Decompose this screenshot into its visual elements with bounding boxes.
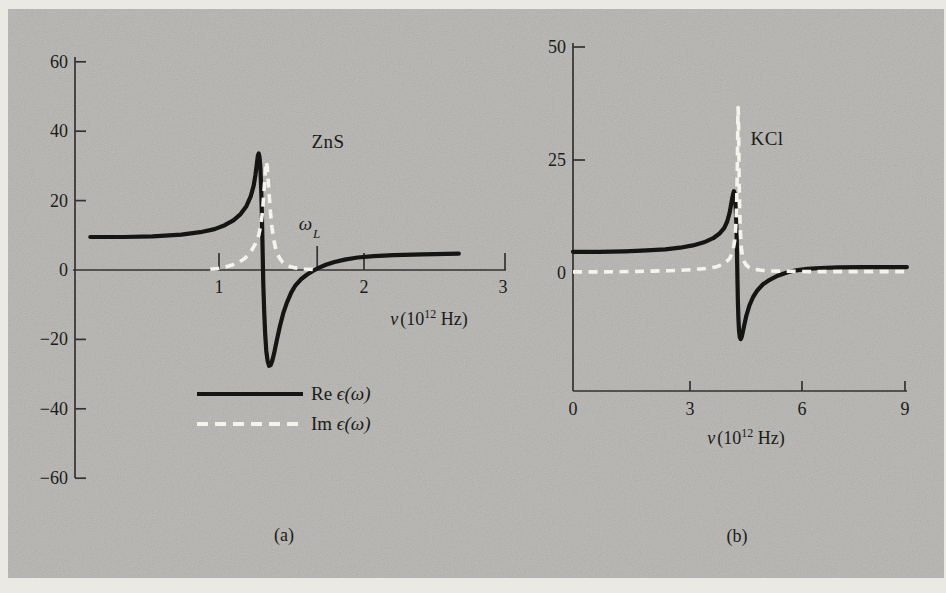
legend-im-prefix: Im [311,413,337,434]
panel-b-x-axis-label: ν(1012 Hz) [707,428,784,449]
re-epsilon-curve [90,153,459,365]
panel-a-caption: (a) [274,525,294,546]
y-tick-label: −40 [40,398,68,419]
y-tick-label: 60 [50,51,68,72]
x-axis-label-close: Hz) [441,309,468,329]
x-tick-label: 9 [901,399,910,420]
x-axis-label-exponent: 12 [741,426,753,440]
x-axis-label-close: Hz) [758,428,785,448]
y-tick-label: 40 [50,121,68,142]
x-tick-label: 1 [215,277,224,298]
y-tick-label: 50 [548,37,566,58]
x-tick-label: 3 [686,399,695,420]
nu-symbol: ν [707,428,715,448]
x-tick-label: 6 [798,399,807,420]
y-tick-label: 20 [50,190,68,211]
omega-l-annotation: ωL [299,213,320,239]
y-tick-label: −60 [40,468,68,489]
im-epsilon-curve [573,108,907,272]
x-tick-label: 0 [569,399,578,420]
legend-im-math: ϵ(ω) [337,413,371,434]
figure-page: { "figure": { "page_color": "#ebe9e4", "… [0,0,946,593]
y-tick-label: 25 [548,150,566,171]
re-epsilon-curve [573,191,907,339]
legend-re-math: ϵ(ω) [337,383,371,404]
legend-re-prefix: Re [311,383,337,404]
panel-b-material-label: KCl [750,128,783,150]
x-tick-label: 2 [360,277,369,298]
nu-symbol: ν [390,309,398,329]
y-tick-label: −20 [40,329,68,350]
y-tick-label: 0 [557,263,566,284]
x-axis-label-open: (10 [400,309,424,329]
y-tick-label: 0 [59,260,68,281]
omega-symbol: ω [299,213,312,234]
x-tick-label: 3 [499,277,508,298]
panel-a-material-label: ZnS [311,131,344,153]
x-axis-label-exponent: 12 [424,307,436,321]
legend-entry-im: Im ϵ(ω) [311,413,371,435]
panel-b-caption: (b) [727,526,748,547]
omega-subscript: L [313,226,320,241]
panel-a-x-axis-label: ν(1012 Hz) [390,309,467,330]
x-axis-label-open: (10 [717,428,741,448]
plots-canvas [0,0,946,593]
legend-entry-re: Re ϵ(ω) [311,383,371,405]
